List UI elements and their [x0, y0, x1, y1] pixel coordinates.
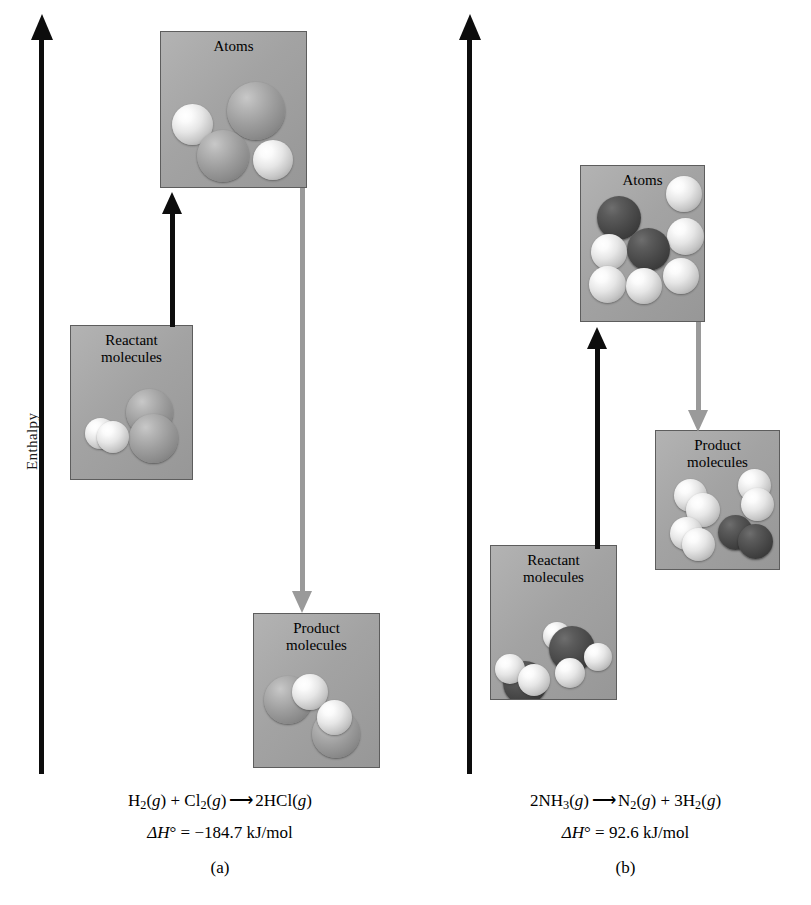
hydrogen-atom [682, 528, 715, 561]
arrow-atoms-to-products-a [292, 188, 313, 613]
arrow-shaft [300, 188, 305, 593]
hydrogen-atom [626, 268, 662, 304]
caption-b: 2NH3(g)⟶N2(g) + 3H2(g) ΔH° = 92.6 kJ/mol… [440, 792, 811, 876]
product-scene-b [656, 431, 779, 569]
axis-arrowhead-icon [31, 14, 53, 40]
hydrogen-atom [666, 176, 702, 212]
product-scene-a [254, 614, 379, 767]
product-box-b: Product molecules [655, 430, 780, 570]
hydrogen-atom [253, 140, 293, 180]
reactant-box-a: Reactant molecules [70, 325, 193, 480]
atoms-scene-b [581, 166, 704, 321]
atoms-scene-a [161, 32, 306, 187]
reactant-scene-a [71, 326, 192, 479]
enthalpy-axis-b [450, 14, 490, 774]
hydrogen-atom [663, 258, 699, 294]
hydrogen-atom [518, 664, 550, 696]
hydrogen-atom [591, 234, 627, 270]
product-box-a: Product molecules [253, 613, 380, 768]
axis-shaft [467, 38, 472, 774]
atoms-box-b: Atoms [580, 165, 705, 322]
arrowhead-up-icon [162, 192, 182, 214]
hydrogen-atom [584, 643, 612, 671]
panel-letter-b: (b) [440, 859, 811, 876]
chlorine-atom [227, 82, 285, 140]
hydrogen-atom [741, 488, 774, 521]
arrow-shaft [595, 347, 600, 549]
enthalpy-axis-a [22, 14, 62, 774]
equation-b: 2NH3(g)⟶N2(g) + 3H2(g) [440, 792, 811, 812]
arrow-shaft [696, 322, 701, 412]
arrowhead-down-icon [688, 410, 708, 432]
delta-h-b: ΔH° = 92.6 kJ/mol [440, 824, 811, 841]
chlorine-atom [129, 414, 178, 463]
hydrogen-atom [555, 658, 585, 688]
arrow-reactants-to-atoms-b [587, 327, 608, 549]
axis-arrowhead-icon [459, 14, 481, 40]
arrow-atoms-to-products-b [688, 322, 709, 432]
hydrogen-atom [317, 700, 352, 735]
panel-a: Enthalpy Atoms Reactant molecules Produc… [0, 0, 440, 905]
arrow-shaft [170, 212, 175, 327]
arrowhead-up-icon [587, 327, 607, 349]
reactant-scene-b [491, 546, 616, 699]
hydrogen-atom [667, 218, 704, 255]
caption-a: H2(g) + Cl2(g)⟶2HCl(g) ΔH° = −184.7 kJ/m… [0, 792, 440, 876]
panel-letter-a: (a) [0, 859, 440, 876]
hydrogen-atom [589, 266, 626, 303]
enthalpy-axis-label: Enthalpy [24, 413, 41, 470]
axis-shaft [39, 38, 44, 774]
equation-a: H2(g) + Cl2(g)⟶2HCl(g) [0, 792, 440, 812]
chlorine-atom [197, 130, 249, 182]
reactant-box-b: Reactant molecules [490, 545, 617, 700]
hydrogen-atom [97, 421, 129, 453]
nitrogen-atom [627, 228, 670, 271]
nitrogen-atom [738, 524, 773, 559]
arrow-reactants-to-atoms-a [162, 192, 183, 327]
delta-h-a: ΔH° = −184.7 kJ/mol [0, 824, 440, 841]
panel-b: Atoms Product molecules [440, 0, 811, 905]
atoms-box-a: Atoms [160, 31, 307, 188]
arrowhead-down-icon [292, 591, 312, 613]
